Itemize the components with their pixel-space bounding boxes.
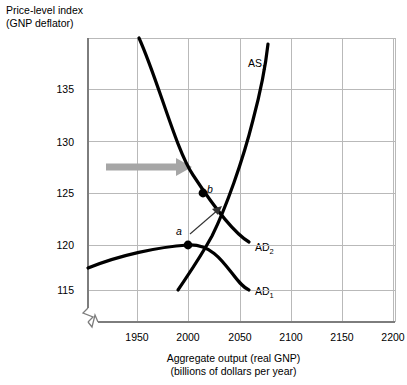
axis-breaks (83, 308, 98, 327)
movement-arrow (190, 206, 222, 234)
chart-svg (0, 0, 407, 385)
shift-arrow (106, 158, 192, 176)
grid-lines (88, 38, 395, 322)
ad1-curve (88, 245, 249, 290)
as-ad-chart: Price-level index (GNP deflator) 135 130… (0, 0, 407, 385)
point-a-marker (184, 241, 193, 250)
axes (88, 38, 395, 322)
ad2-curve (139, 38, 249, 242)
point-b-marker (199, 189, 208, 198)
y-axis-break-icon (83, 308, 93, 322)
